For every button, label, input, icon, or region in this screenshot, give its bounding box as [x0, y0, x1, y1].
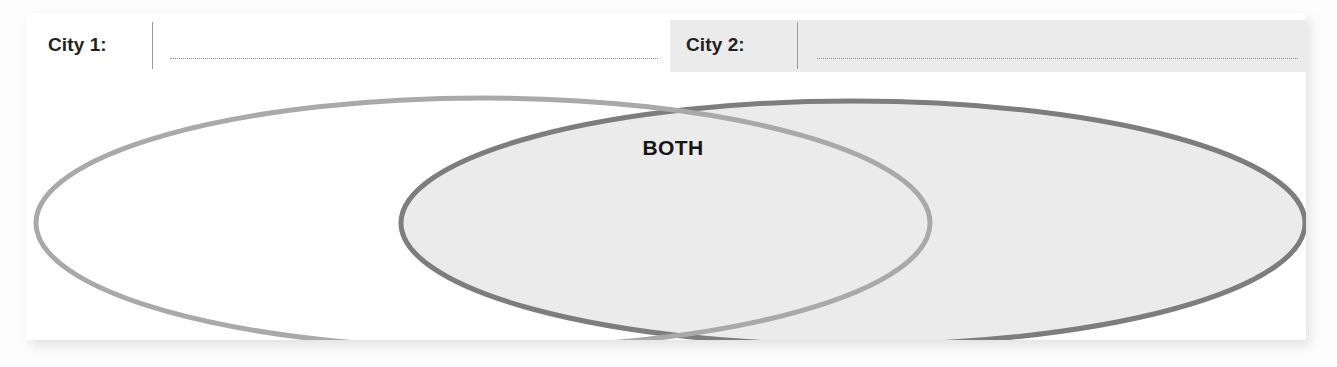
- venn-circle-city2[interactable]: [401, 101, 1305, 340]
- city1-divider: [152, 22, 153, 69]
- city2-field-group: City 2:: [686, 20, 1306, 72]
- city1-label: City 1:: [48, 34, 107, 56]
- worksheet-page: City 1: City 2: BOTH: [0, 0, 1337, 367]
- city2-divider: [797, 22, 798, 69]
- venn-svg: [26, 73, 1306, 340]
- venn-diagram: BOTH: [26, 73, 1306, 340]
- city1-input[interactable]: [170, 58, 658, 59]
- city2-input[interactable]: [817, 58, 1298, 59]
- header-row: City 1: City 2:: [26, 13, 1306, 73]
- city1-field-group: City 1:: [48, 20, 668, 72]
- city2-label: City 2:: [686, 34, 745, 56]
- venn-overlap-label: BOTH: [623, 136, 723, 160]
- worksheet-card: City 1: City 2: BOTH: [26, 13, 1306, 340]
